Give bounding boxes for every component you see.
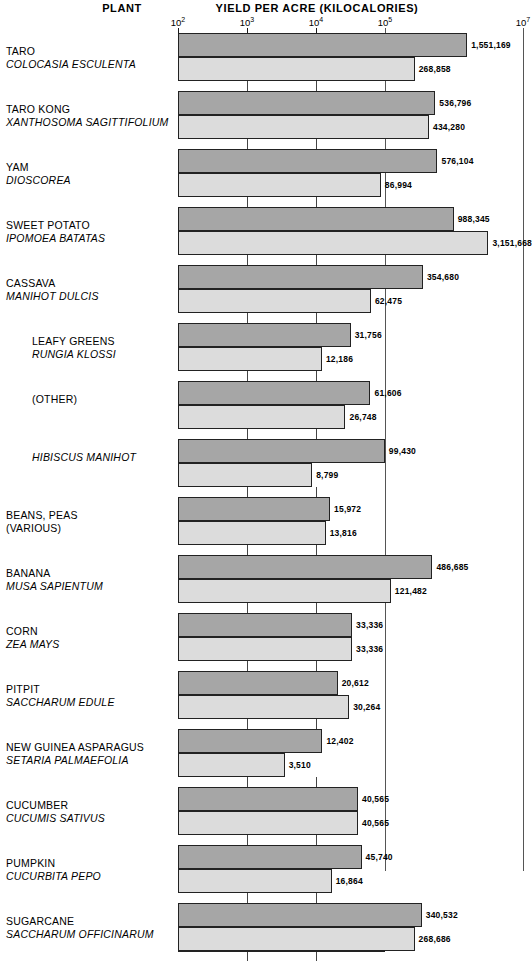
bar-group: 20,61230,264 <box>178 671 459 729</box>
plant-latin-name: SETARIA PALMAEFOLIA <box>6 754 176 767</box>
plant-label: SWEET POTATOIPOMOEA BATATAS <box>6 219 176 244</box>
bar-series-1[interactable] <box>178 265 423 289</box>
plant-label: LEAFY GREENSRUNGIA KLOSSI <box>6 335 176 360</box>
plant-label: CORNZEA MAYS <box>6 625 176 650</box>
plant-label: TAROCOLOCASIA ESCULENTA <box>6 45 176 70</box>
bar-group: 45,74016,864 <box>178 845 459 903</box>
bar-series-1[interactable] <box>178 903 422 927</box>
bar-series-1[interactable] <box>178 787 358 811</box>
bar-series-2[interactable] <box>178 753 285 777</box>
plant-common-name: LEAFY GREENS <box>6 335 176 348</box>
bar-group: 576,10486,994 <box>178 149 459 207</box>
bar-row: 40,565 <box>178 811 459 835</box>
bar-row: 45,740 <box>178 845 459 869</box>
plant-label: CASSAVAMANIHOT DULCIS <box>6 277 176 302</box>
x-axis-tick-label: 105 <box>378 16 392 28</box>
bar-row: 8,799 <box>178 463 459 487</box>
plant-common-name: BEANS, PEAS <box>6 509 176 522</box>
bar-series-1[interactable] <box>178 729 322 753</box>
bar-group: 988,3453,151,668 <box>178 207 459 265</box>
bar-group: 340,532268,686 <box>178 903 459 961</box>
bar-series-2[interactable] <box>178 347 322 371</box>
bar-series-1[interactable] <box>178 207 454 231</box>
bar-series-2[interactable] <box>178 463 312 487</box>
bar-row: 3,151,668 <box>178 231 459 255</box>
plant-label: TARO KONGXANTHOSOMA SAGITTIFOLIUM <box>6 103 176 128</box>
plant-common-name: SWEET POTATO <box>6 219 176 232</box>
plant-common-name: TARO <box>6 45 176 58</box>
bar-series-2[interactable] <box>178 579 391 603</box>
bar-row: 988,345 <box>178 207 459 231</box>
gridline-stub <box>247 197 248 207</box>
bar-row: 30,264 <box>178 695 459 719</box>
bar-series-2[interactable] <box>178 521 326 545</box>
bar-group-gap <box>178 893 459 903</box>
bar-series-1[interactable] <box>178 613 352 637</box>
plant-latin-name: SACCHARUM EDULE <box>6 696 176 709</box>
bar-group: 61,60626,748 <box>178 381 459 439</box>
bar-series-2[interactable] <box>178 695 349 719</box>
bar-series-2[interactable] <box>178 289 371 313</box>
bar-value-label: 268,858 <box>415 64 451 74</box>
gridline-stub <box>316 429 317 439</box>
bar-value-label: 12,402 <box>322 736 353 746</box>
bar-row: 33,336 <box>178 637 459 661</box>
bar-value-label: 121,482 <box>391 586 427 596</box>
bar-series-1[interactable] <box>178 33 467 57</box>
gridline-stub <box>316 893 317 903</box>
x-axis-gridline <box>523 28 524 871</box>
plant-label: HIBISCUS MANIHOT <box>6 451 176 464</box>
plant-latin-name: SACCHARUM OFFICINARUM <box>6 928 176 941</box>
bar-group-gap <box>178 81 459 91</box>
bar-series-1[interactable] <box>178 91 435 115</box>
bar-row: 40,565 <box>178 787 459 811</box>
bar-value-label: 340,532 <box>422 910 458 920</box>
bar-series-1[interactable] <box>178 555 432 579</box>
bar-series-2[interactable] <box>178 115 429 139</box>
bar-row: 12,402 <box>178 729 459 753</box>
bar-series-2[interactable] <box>178 811 358 835</box>
bar-row: 86,994 <box>178 173 459 197</box>
plant-latin-name: IPOMOEA BATATAS <box>6 232 176 245</box>
bar-series-1[interactable] <box>178 671 338 695</box>
plant-label: PUMPKINCUCURBITA PEPO <box>6 857 176 882</box>
plant-latin-name: MANIHOT DULCIS <box>6 290 176 303</box>
bar-value-label: 86,994 <box>381 180 412 190</box>
bar-series-2[interactable] <box>178 927 415 951</box>
x-axis-tick-label: 102 <box>171 16 185 28</box>
bar-value-label: 99,430 <box>385 446 416 456</box>
gridline-stub <box>247 487 248 497</box>
bar-row: 536,796 <box>178 91 459 115</box>
bar-row: 62,475 <box>178 289 459 313</box>
bar-series-2[interactable] <box>178 405 345 429</box>
gridline-stub <box>247 893 248 903</box>
bar-series-1[interactable] <box>178 845 362 869</box>
bar-series-1[interactable] <box>178 497 330 521</box>
bar-group-gap <box>178 139 459 149</box>
bar-series-2[interactable] <box>178 637 352 661</box>
gridline-stub <box>316 777 317 787</box>
bar-series-1[interactable] <box>178 381 370 405</box>
bar-value-label: 33,336 <box>352 620 383 630</box>
bar-series-2[interactable] <box>178 57 415 81</box>
plant-label: PITPITSACCHARUM EDULE <box>6 683 176 708</box>
bar-series-2[interactable] <box>178 173 381 197</box>
plant-latin-name: ZEA MAYS <box>6 638 176 651</box>
bar-group: 40,56540,565 <box>178 787 459 845</box>
bar-row: 15,972 <box>178 497 459 521</box>
bar-row: 31,756 <box>178 323 459 347</box>
bar-row: 121,482 <box>178 579 459 603</box>
bar-series-1[interactable] <box>178 439 385 463</box>
plant-label-column: TAROCOLOCASIA ESCULENTATARO KONGXANTHOSO… <box>0 33 178 871</box>
bar-series-1[interactable] <box>178 323 351 347</box>
gridline-stub <box>247 371 248 381</box>
plant-common-name: PITPIT <box>6 683 176 696</box>
x-axis-tick-label: 103 <box>240 16 254 28</box>
bar-group-gap <box>178 487 459 497</box>
bar-series-1[interactable] <box>178 149 437 173</box>
bar-value-label: 1,551,169 <box>467 40 511 50</box>
bar-group: 1,551,169268,858 <box>178 33 459 91</box>
bar-series-2[interactable] <box>178 231 488 255</box>
bar-group: 536,796434,280 <box>178 91 459 149</box>
bar-series-2[interactable] <box>178 869 332 893</box>
